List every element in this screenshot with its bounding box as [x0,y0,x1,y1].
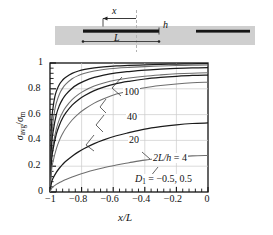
ytick-label-02: 0.2 [28,160,41,170]
ytick-label-06: 0.6 [28,109,41,119]
xtick-label-0: 0 [205,194,210,204]
annotation-2Lh-value: 4 [182,152,187,163]
layer-band [55,26,255,45]
y-axis-sub-avg: avg [19,125,27,135]
figure-root: x h L [0,0,273,235]
y-axis-sub-m: m [19,112,27,118]
plot-canvas [0,55,273,235]
y-axis-slash: / [14,122,25,125]
L-annotation-label: L [114,33,120,43]
annotation-D1-value: −0.5, 0.5 [156,173,192,184]
annotation-2Lh-eq: = [171,152,182,163]
annotation-D1: D1 = −0.5, 0.5 [134,174,193,186]
y-axis-sigma-avg: σ [14,135,25,140]
ytick-label-1: 1 [38,57,43,67]
h-annotation-label: h [163,20,168,30]
xtick-label-n08: −0.8 [69,194,87,204]
left-strip [83,30,159,33]
L-left-endpoint [82,40,85,43]
ytick-label-08: 0.8 [28,83,41,93]
curve-label-20: 20 [128,135,140,145]
xtick-label-n1: −1 [45,194,56,204]
right-strip [196,30,250,33]
x-arrowhead [103,17,108,21]
y-axis-title: σavg/σm [15,96,27,156]
xtick-label-n04: −0.4 [132,194,150,204]
ytick-label-0: 0 [38,186,43,196]
annotation-2Lh: 2L/h = 4 [152,153,188,163]
ytick-label-04: 0.4 [28,134,41,144]
xtick-label-n06: −0.6 [101,194,119,204]
x-annotation-label: x [112,6,116,16]
curve-label-100: 100 [123,87,140,97]
L-right-endpoint [158,40,161,43]
xtick-label-n02: −0.2 [164,194,182,204]
x-axis-title: x/L [118,212,132,223]
schematic-diagram [0,0,273,60]
y-axis-sigma-m: σ [14,117,25,122]
annotation-2Lh-expr: 2L/h [153,152,171,163]
annotation-D1-eq: = [146,173,157,184]
curve-label-40: 40 [126,112,138,122]
